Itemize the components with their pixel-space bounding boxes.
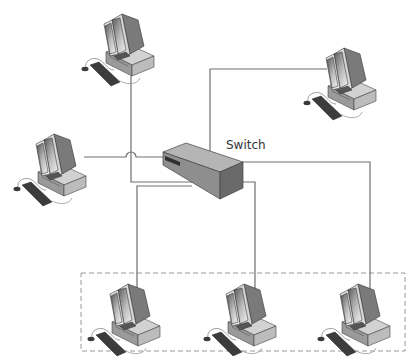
workstation-left [14, 134, 87, 206]
workstation-bottom-3 [318, 284, 391, 356]
workstation-top-right [304, 48, 377, 120]
workstation-top-left [82, 14, 155, 86]
workstation-bottom-2 [204, 284, 277, 356]
switch-label: Switch [226, 138, 266, 152]
workstation-bottom-1 [88, 284, 161, 356]
network-diagram [0, 0, 414, 364]
